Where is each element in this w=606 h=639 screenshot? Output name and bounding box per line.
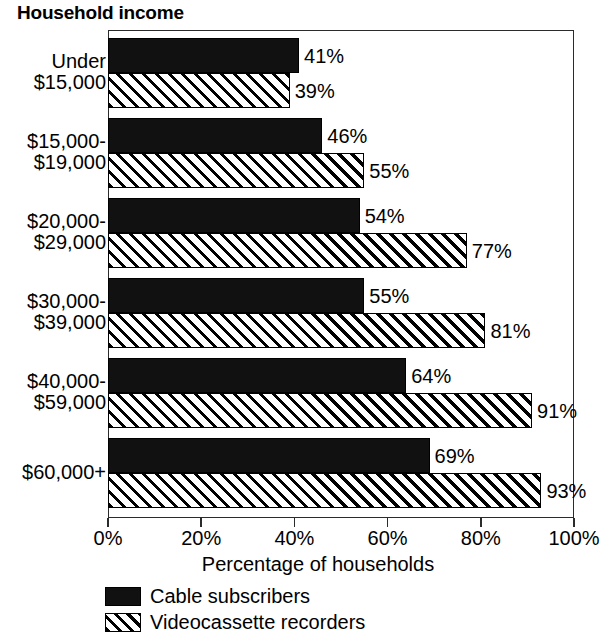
x-axis-tick-label: 20%	[181, 528, 221, 548]
bar-videocassette-recorders	[108, 73, 290, 108]
bar-value-label: 93%	[546, 481, 586, 501]
bar-videocassette-recorders	[108, 393, 532, 428]
x-axis-tick-label: 60%	[368, 528, 408, 548]
page-title: Household income	[17, 2, 184, 24]
bar-videocassette-recorders	[108, 153, 364, 188]
bar-value-label: 69%	[435, 446, 475, 466]
bar-group: 69%93%	[108, 438, 574, 508]
x-axis-tick-label: 80%	[461, 528, 501, 548]
legend-swatch-vcr-icon	[105, 613, 141, 632]
legend-swatch-cable-icon	[105, 587, 141, 606]
category-label: Under$15,000	[0, 51, 106, 93]
legend-item-cable-subscribers: Cable subscribers	[105, 583, 365, 609]
bar-value-label: 55%	[369, 161, 409, 181]
bar-cable-subscribers	[108, 118, 322, 153]
category-label-line: $60,000+	[0, 462, 106, 483]
category-label-line: $40,000-	[0, 371, 106, 392]
x-axis-tick-mark	[294, 518, 296, 527]
bar-value-label: 64%	[411, 366, 451, 386]
bar-group: 41%39%	[108, 38, 574, 108]
x-axis-tick-mark	[200, 518, 202, 527]
bar-value-label: 39%	[295, 81, 335, 101]
bar-group: 46%55%	[108, 118, 574, 188]
bar-cable-subscribers	[108, 438, 430, 473]
category-label: $40,000-$59,000	[0, 371, 106, 413]
x-axis-tick-mark	[387, 518, 389, 527]
legend-item-videocassette-recorders: Videocassette recorders	[105, 609, 365, 635]
category-label: $15,000-$19,000	[0, 131, 106, 173]
category-label: $30,000-$39,000	[0, 291, 106, 333]
bar-cable-subscribers	[108, 38, 299, 73]
category-label-line: $19,000	[0, 152, 106, 173]
bar-group: 55%81%	[108, 278, 574, 348]
bar-value-label: 55%	[369, 286, 409, 306]
bar-cable-subscribers	[108, 358, 406, 393]
bar-group: 64%91%	[108, 358, 574, 428]
legend-label: Cable subscribers	[150, 586, 310, 606]
x-axis-tick-label: 40%	[274, 528, 314, 548]
category-label-line: $29,000	[0, 232, 106, 253]
category-label: $60,000+	[0, 462, 106, 483]
bar-value-label: 77%	[472, 241, 512, 261]
category-label-line: $59,000	[0, 392, 106, 413]
bar-cable-subscribers	[108, 278, 364, 313]
bar-cable-subscribers	[108, 198, 360, 233]
bar-value-label: 81%	[490, 321, 530, 341]
plot-area: 41%39%46%55%54%77%55%81%64%91%69%93%	[108, 30, 574, 518]
chart-legend: Cable subscribers Videocassette recorder…	[105, 583, 365, 635]
x-axis-tick-label: 100%	[548, 528, 599, 548]
x-axis-tick-label: 0%	[94, 528, 123, 548]
category-label-line: $30,000-	[0, 291, 106, 312]
category-label-line: $15,000-	[0, 131, 106, 152]
x-axis-tick-mark	[107, 518, 109, 527]
category-label-line: Under	[0, 51, 106, 72]
category-label-line: $20,000-	[0, 211, 106, 232]
bar-videocassette-recorders	[108, 313, 485, 348]
bar-group: 54%77%	[108, 198, 574, 268]
category-label-line: $39,000	[0, 312, 106, 333]
bar-value-label: 41%	[304, 46, 344, 66]
bar-value-label: 91%	[537, 401, 577, 421]
bar-videocassette-recorders	[108, 473, 541, 508]
bar-value-label: 54%	[365, 206, 405, 226]
x-axis-title: Percentage of households	[0, 553, 606, 576]
chart-figure: Household income 41%39%46%55%54%77%55%81…	[0, 0, 606, 639]
category-label: $20,000-$29,000	[0, 211, 106, 253]
bar-videocassette-recorders	[108, 233, 467, 268]
category-label-line: $15,000	[0, 72, 106, 93]
legend-label: Videocassette recorders	[150, 612, 365, 632]
x-axis-tick-mark	[480, 518, 482, 527]
bar-value-label: 46%	[327, 126, 367, 146]
x-axis-tick-mark	[573, 518, 575, 527]
